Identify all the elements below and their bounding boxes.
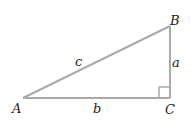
side-label-b: b: [93, 101, 101, 116]
side-label-c: c: [75, 54, 83, 69]
vertex-label-b: B: [169, 13, 180, 28]
side-label-a: a: [172, 55, 180, 70]
side-c-line: [23, 26, 170, 98]
right-angle-marker: [159, 87, 170, 98]
vertex-label-c: C: [165, 102, 175, 117]
right-triangle-diagram: A B C a b c: [0, 0, 191, 125]
vertex-label-a: A: [11, 101, 21, 116]
